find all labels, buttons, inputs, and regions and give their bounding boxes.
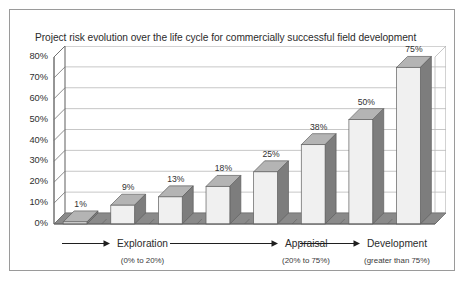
right-arrow-icon	[300, 239, 360, 248]
y-axis-tick-label: 40%	[14, 135, 48, 145]
bar-value-label: 75%	[405, 44, 422, 54]
plot-area: 1%9%13%18%25%38%50%75%0%10%20%30%40%50%6…	[20, 46, 446, 236]
bar-value-label: 13%	[167, 174, 184, 184]
axis-depth-tick	[54, 192, 65, 203]
y-axis-tick-label: 20%	[14, 176, 48, 186]
y-axis-tick-label: 10%	[14, 197, 48, 207]
right-arrow-icon	[62, 239, 110, 248]
right-arrow-icon	[170, 239, 278, 248]
y-axis-tick-label: 50%	[14, 114, 48, 124]
y-axis-tick-label: 80%	[14, 51, 48, 61]
axis-depth-tick	[54, 67, 65, 78]
phase-row: Development	[300, 238, 463, 249]
phase-annotation: Exploration(0% to 20%)	[62, 238, 186, 267]
bar-value-label: 1%	[74, 199, 86, 209]
bar-column	[397, 56, 432, 224]
bar-value-label: 25%	[262, 149, 279, 159]
phase-range-label: (0% to 20%)	[121, 256, 164, 265]
phase-name-label: Exploration	[117, 238, 168, 249]
y-axis-tick-label: 70%	[14, 72, 48, 82]
y-axis-tick-label: 60%	[14, 93, 48, 103]
phase-name-label: Development	[367, 238, 427, 249]
bar-column	[206, 175, 241, 224]
bar-column	[254, 161, 289, 224]
y-axis-tick-label: 0%	[14, 218, 48, 228]
axis-depth-tick	[54, 150, 65, 161]
bar-value-label: 9%	[122, 182, 134, 192]
bar-column	[301, 134, 336, 224]
bar-value-label: 38%	[310, 122, 327, 132]
bar-column	[349, 109, 384, 224]
axis-depth-tick	[54, 88, 65, 99]
axis-depth-tick	[54, 109, 65, 120]
axis-depth-tick	[54, 171, 65, 182]
y-axis-tick-label: 30%	[14, 155, 48, 165]
chart-figure: Project risk evolution over the life cyc…	[0, 0, 466, 289]
bar-value-label: 50%	[358, 97, 375, 107]
phase-range-label: (greater than 75%)	[364, 256, 430, 265]
phase-annotation: Development(greater than 75%)	[300, 238, 463, 267]
phase-annotations: Exploration(0% to 20%)Appraisal(20% to 7…	[0, 238, 466, 282]
axis-depth-tick	[54, 130, 65, 141]
bar-value-label: 18%	[215, 163, 232, 173]
phase-row: Exploration	[62, 238, 186, 249]
bar-column	[158, 186, 193, 224]
chart-title: Project risk evolution over the life cyc…	[35, 32, 416, 43]
